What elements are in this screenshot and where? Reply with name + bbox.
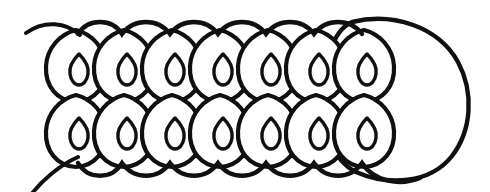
lower-tail-stroke	[30, 157, 78, 192]
illustration-canvas: Hand-drawn line illustration of a cylind…	[0, 0, 490, 192]
filament-diagram: Hand-drawn line illustration of a cylind…	[0, 0, 490, 192]
cell-top-7	[334, 30, 394, 102]
cell-bottom-7	[334, 95, 394, 167]
